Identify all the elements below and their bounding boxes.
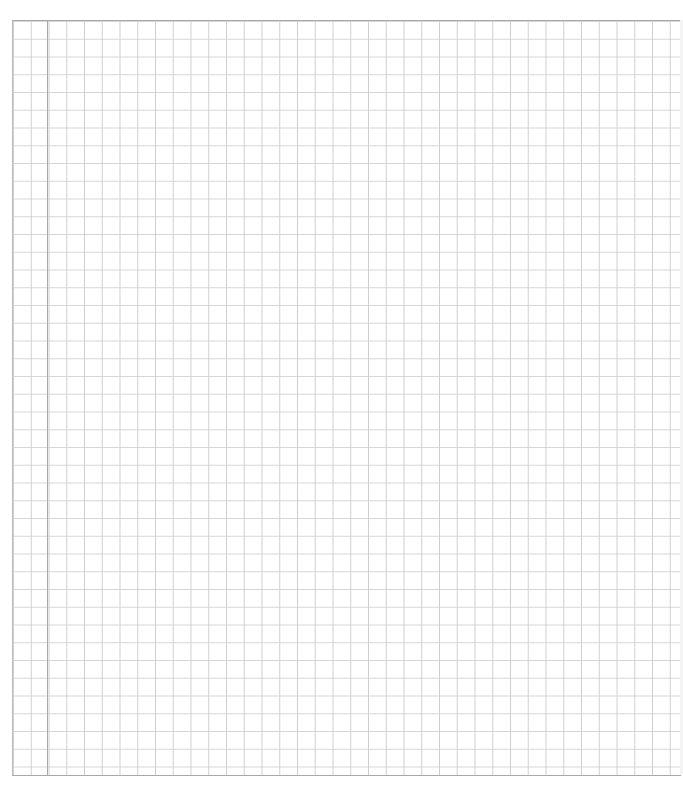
graph-paper-sheet	[12, 20, 681, 776]
left-margin-line	[47, 20, 48, 775]
